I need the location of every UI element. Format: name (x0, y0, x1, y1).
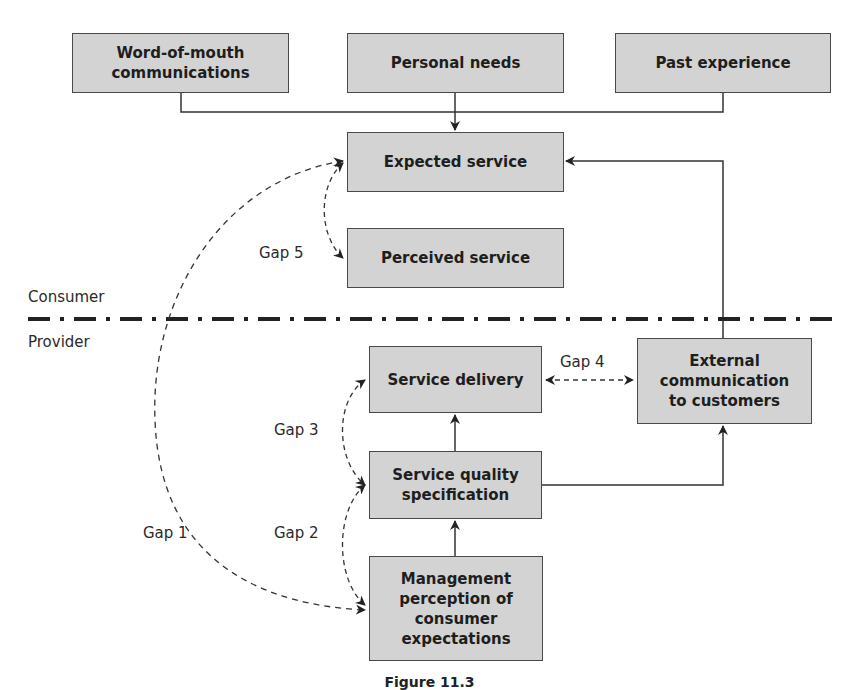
gap2-label: Gap 2 (274, 524, 319, 542)
inputs-connector (181, 93, 723, 130)
gap1-arrow (155, 161, 365, 610)
zone-label-consumer: Consumer (28, 288, 105, 306)
box-service-delivery: Service delivery (369, 346, 542, 413)
figure-caption: Figure 11.3 (0, 674, 859, 690)
box-personal-needs: Personal needs (347, 33, 564, 93)
external-to-expected-connector (566, 161, 723, 338)
zone-label-provider: Provider (28, 333, 90, 351)
box-external-communication: External communication to customers (637, 338, 812, 424)
box-perceived-service: Perceived service (347, 228, 564, 288)
box-past-experience: Past experience (615, 33, 831, 93)
box-service-quality-specification: Service quality specification (369, 451, 542, 519)
gap1-label: Gap 1 (143, 524, 188, 542)
gap5-arrow (324, 163, 343, 258)
box-word-of-mouth: Word-of-mouth communications (72, 33, 289, 93)
gap3-arrow (343, 380, 366, 485)
box-expected-service: Expected service (347, 132, 564, 192)
gap4-label: Gap 4 (560, 353, 605, 371)
gap2-arrow (343, 485, 366, 605)
gap5-label: Gap 5 (259, 244, 304, 262)
box-management-perception: Management perception of consumer expect… (369, 556, 543, 661)
gap3-label: Gap 3 (274, 421, 319, 439)
